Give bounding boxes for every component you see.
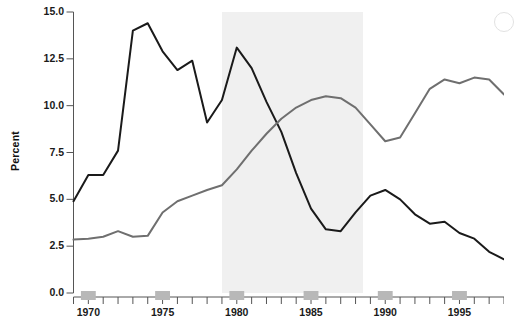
x-tick-marks-group xyxy=(74,297,505,304)
x-tick-highlight-bar xyxy=(229,291,244,300)
x-tick-highlight-bar xyxy=(378,291,393,300)
x-tick-highlight-bar xyxy=(304,291,319,300)
y-tick-marks-group xyxy=(67,12,74,293)
x-tick-highlight-bar xyxy=(81,291,96,300)
x-tick-highlight-bar xyxy=(452,291,467,300)
corner-arc-decoration xyxy=(494,12,514,32)
highlight-band xyxy=(222,12,363,293)
shaded-bands-group xyxy=(222,12,363,293)
x-tick-highlight-bar xyxy=(155,291,170,300)
